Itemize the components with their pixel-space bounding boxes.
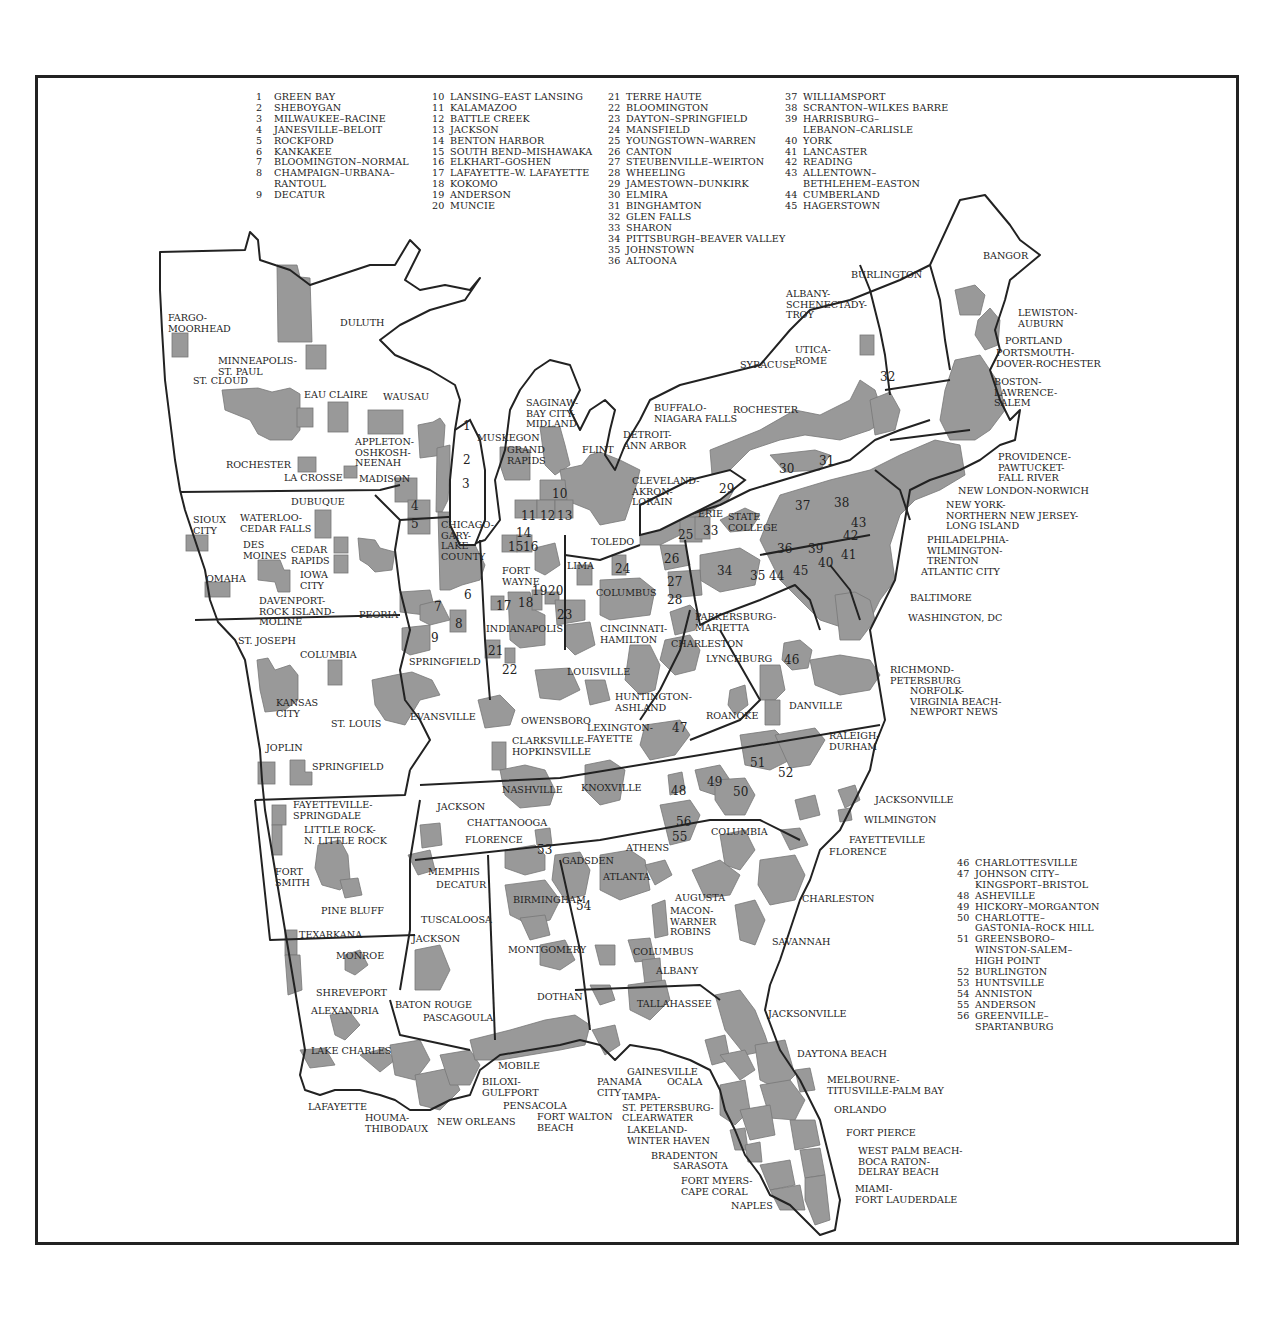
metro-number-label: 40	[818, 557, 833, 569]
metro-number-label: 22	[502, 664, 517, 676]
city-label: NASHVILLE	[502, 785, 563, 796]
city-label: STATE COLLEGE	[728, 512, 778, 533]
city-label: KNOXVILLE	[581, 783, 642, 794]
metro-number-label: 42	[843, 530, 858, 542]
city-label: WASHINGTON, DC	[908, 613, 1002, 624]
metro-number-label: 47	[672, 722, 687, 734]
metro-number-label: 1	[463, 420, 471, 432]
city-label: FLORENCE	[465, 835, 523, 846]
city-label: FLORENCE	[829, 847, 887, 858]
city-label: MELBOURNE- TITUSVILLE-PALM BAY	[827, 1075, 944, 1096]
metro-number-label: 11	[521, 510, 536, 522]
city-label: SPRINGFIELD	[409, 657, 481, 668]
metro-number-label: 5	[411, 518, 419, 530]
city-label: GRAND RAPIDS	[507, 445, 546, 466]
metro-number-label: 23	[557, 609, 572, 621]
city-label: SAVANNAH	[772, 937, 830, 948]
city-label: IOWA CITY	[300, 570, 328, 591]
city-label: FORT SMITH	[275, 867, 310, 888]
metro-number-label: 52	[778, 767, 793, 779]
metro-number-label: 54	[576, 900, 591, 912]
metro-number-label: 27	[667, 576, 682, 588]
city-label: FAYETTEVILLE	[849, 835, 925, 846]
city-label: FLINT	[582, 445, 614, 456]
city-label: HUNTINGTON- ASHLAND	[615, 692, 692, 713]
city-label: MOBILE	[498, 1061, 540, 1072]
city-label: MUSKEGON	[477, 433, 540, 444]
city-label: DAYTONA BEACH	[797, 1049, 887, 1060]
city-label: ROCHESTER	[226, 460, 291, 471]
city-label: CHARLESTON	[671, 639, 743, 650]
city-label: OMAHA	[206, 574, 246, 585]
city-label: PARKERSBURG- MARIETTA	[695, 612, 776, 633]
city-label: MADISON	[359, 474, 410, 485]
city-label: DAVENPORT- ROCK ISLAND- MOLINE	[259, 596, 335, 628]
city-label: NAPLES	[731, 1201, 773, 1212]
city-label: EVANSVILLE	[410, 712, 476, 723]
city-label: LIMA	[567, 561, 594, 572]
city-label: NORFOLK- VIRGINIA BEACH- NEWPORT NEWS	[910, 686, 1002, 718]
metro-number-label: 12	[540, 510, 555, 522]
city-label: BOSTON- LAWRENCE- SALEM	[994, 377, 1057, 409]
city-label: UTICA- ROME	[795, 345, 831, 366]
metro-number-label: 35	[750, 570, 765, 582]
metro-number-label: 13	[557, 510, 572, 522]
city-label: ERIE	[698, 509, 723, 520]
city-label: DECATUR	[436, 880, 486, 891]
city-label: FAYETTEVILLE- SPRINGDALE	[293, 800, 373, 821]
city-label: ST. JOSEPH	[238, 636, 296, 647]
city-label: RICHMOND- PETERSBURG	[890, 665, 961, 686]
city-label: BANGOR	[983, 251, 1028, 262]
metro-number-label: 34	[717, 565, 732, 577]
city-label: DES MOINES	[243, 540, 286, 561]
city-label: PINE BLUFF	[321, 906, 384, 917]
metro-number-label: 18	[518, 597, 533, 609]
city-label: MACON- WARNER ROBINS	[670, 906, 716, 938]
metro-number-label: 15	[508, 541, 523, 553]
city-label: TEXARKANA	[299, 930, 362, 941]
city-label: MONTGOMERY	[508, 945, 586, 956]
city-label: GADSDEN	[562, 856, 614, 867]
city-label: PROVIDENCE- PAWTUCKET- FALL RIVER	[998, 452, 1071, 484]
city-label: JACKSON	[437, 802, 485, 813]
city-label: PEORIA	[359, 610, 398, 621]
city-label: ATLANTA	[603, 872, 650, 883]
metro-number-label: 56	[676, 816, 691, 828]
city-label: LA CROSSE	[284, 473, 343, 484]
city-label: TOLEDO	[591, 537, 634, 548]
metro-number-label: 14	[516, 527, 531, 539]
city-label: CLARKSVILLE- HOPKINSVILLE	[512, 736, 591, 757]
city-label: LEXINGTON- FAYETTE	[587, 723, 653, 744]
city-label: LYNCHBURG	[706, 654, 772, 665]
metro-number-label: 45	[793, 565, 808, 577]
metro-number-label: 51	[750, 757, 765, 769]
city-label: RALEIGH- DURHAM	[829, 731, 880, 752]
city-label: CHATTANOOGA	[467, 818, 547, 829]
city-label: ALBANY	[656, 966, 698, 977]
city-label: LITTLE ROCK- N. LITTLE ROCK	[304, 825, 387, 846]
city-label: LAKELAND- WINTER HAVEN	[627, 1125, 710, 1146]
city-label: DULUTH	[340, 318, 384, 329]
city-label: WATERLOO- CEDAR FALLS	[240, 513, 311, 534]
city-label: BUFFALO- NIAGARA FALLS	[654, 403, 737, 424]
city-label: MEMPHIS	[428, 867, 480, 878]
city-label: SPRINGFIELD	[312, 762, 384, 773]
city-label: LAFAYETTE	[308, 1102, 367, 1113]
city-label: ROCHESTER	[733, 405, 798, 416]
city-label: CEDAR RAPIDS	[291, 545, 330, 566]
city-label: ROANOKE	[706, 711, 758, 722]
city-label: FARGO- MOORHEAD	[168, 313, 231, 334]
city-label: EAU CLAIRE	[304, 390, 368, 401]
city-label: CHARLESTON	[802, 894, 874, 905]
city-label: DETROIT- ANN ARBOR	[623, 430, 686, 451]
city-label: PASCAGOULA	[423, 1013, 493, 1024]
city-label: COLUMBUS	[596, 588, 657, 599]
city-label: APPLETON- OSHKOSH- NEENAH	[355, 437, 414, 469]
city-label: FORT WALTON BEACH	[537, 1112, 613, 1133]
city-label: INDIANAPOLIS	[486, 624, 563, 635]
city-label: AUGUSTA	[675, 893, 725, 904]
city-label: PHILADELPHIA- WILMINGTON- TRENTON	[927, 535, 1009, 567]
metro-number-label: 6	[464, 589, 472, 601]
metro-number-label: 3	[462, 478, 470, 490]
city-label: KANSAS CITY	[276, 698, 318, 719]
